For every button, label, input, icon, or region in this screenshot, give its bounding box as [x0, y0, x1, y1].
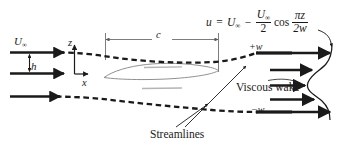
equation-term1-sub: ∞: [235, 22, 240, 30]
freestream-velocity-label: U∞: [14, 36, 27, 48]
x-axis-label: x: [82, 78, 87, 89]
figure-viscous-wake-diagram: u = U∞ − U∞ 2 cos πz 2w U∞ h z x c +w −w…: [0, 0, 349, 147]
viscous-wake-label: Viscous wake: [236, 82, 300, 94]
plus-w-label: +w: [249, 42, 262, 52]
wake-velocity-profile-curve: [307, 45, 332, 121]
streamlines-label: Streamlines: [150, 129, 204, 141]
equation-frac-num-sub: ∞: [265, 14, 270, 22]
streamline-lower: [56, 97, 258, 112]
equation-frac-den: 2: [256, 23, 271, 35]
airfoil-section: [104, 63, 219, 79]
freestream-subscript: ∞: [22, 41, 27, 48]
equation-lhs: u: [206, 16, 212, 28]
equation-cos-frac-den: 2w: [292, 23, 307, 35]
equation-fraction-piz-over-2w: πz 2w: [292, 10, 307, 35]
equation-cos: cos: [274, 16, 289, 28]
airfoil-interior-lines: [142, 67, 182, 89]
chord-label: c: [156, 30, 161, 41]
equation-leader-line: [318, 30, 332, 47]
streamline-upper: [59, 52, 258, 62]
minus-w-label: −w: [251, 105, 264, 115]
height-label: h: [31, 61, 37, 72]
equation-frac-num: U: [257, 8, 265, 20]
equation-fraction-uinf-over-2: U∞ 2: [256, 9, 271, 35]
equation-minus: −: [243, 16, 253, 28]
wake-velocity-equation: u = U∞ − U∞ 2 cos πz 2w: [206, 9, 308, 35]
z-axis-label: z: [68, 38, 72, 49]
streamlines-leader-lines: [176, 66, 246, 127]
equation-equals: =: [215, 16, 225, 28]
coordinate-axes: [75, 45, 89, 74]
